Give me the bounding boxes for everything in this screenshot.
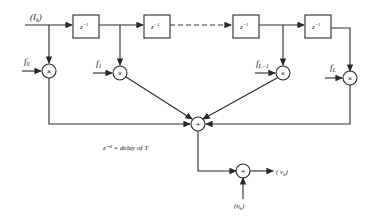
- input-signal: (Ik): [25, 12, 72, 25]
- svg-text:×: ×: [47, 68, 51, 75]
- svg-text:z−1: z−1: [79, 22, 89, 31]
- delay-block-4: z−1: [305, 15, 331, 38]
- svg-text:×: ×: [348, 75, 352, 82]
- delay-legend: z⁻¹ = delay of T: [102, 144, 149, 152]
- output-label: ( vk): [276, 168, 288, 177]
- svg-text:(Ik): (Ik): [30, 12, 42, 23]
- svg-text:z−1: z−1: [239, 22, 249, 31]
- noise-label: (ηk): [234, 202, 245, 211]
- delay-block-2: z−1: [144, 15, 170, 38]
- svg-text:f0: f0: [24, 56, 30, 67]
- multiplier-f0: × f0: [22, 56, 56, 78]
- svg-text:+: +: [241, 167, 246, 176]
- svg-text:f1: f1: [96, 58, 102, 69]
- multiplier-f1: × f1: [93, 58, 127, 80]
- multiplier-fL-1: × fL−1: [255, 58, 290, 80]
- svg-text:+: +: [196, 120, 201, 129]
- tapped-delay-line-diagram: (Ik) z−1 z−1 z−1 z−1 × f0 × f1 × fL: [0, 0, 376, 220]
- svg-text:z−1: z−1: [150, 22, 160, 31]
- summing-junction: +: [191, 117, 205, 131]
- noise-adder: +: [236, 164, 250, 178]
- svg-text:fL−1: fL−1: [256, 58, 269, 69]
- svg-text:×: ×: [281, 70, 285, 77]
- delay-block-1: z−1: [73, 15, 99, 38]
- delay-block-3: z−1: [233, 15, 259, 38]
- svg-text:z−1: z−1: [311, 22, 321, 31]
- multiplier-fL: × fL: [325, 62, 357, 85]
- svg-text:×: ×: [118, 70, 122, 77]
- svg-text:fL: fL: [330, 62, 337, 73]
